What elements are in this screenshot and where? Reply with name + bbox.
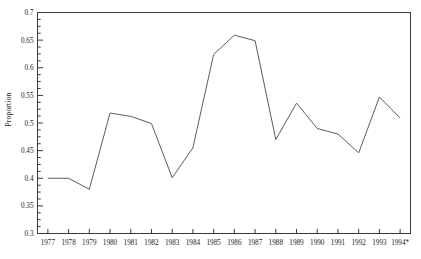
- svg-text:1978: 1978: [61, 239, 76, 247]
- svg-text:0.5: 0.5: [25, 120, 34, 128]
- svg-text:1990: 1990: [310, 239, 325, 247]
- svg-text:0.45: 0.45: [21, 147, 34, 155]
- svg-text:1979: 1979: [82, 239, 97, 247]
- svg-text:1980: 1980: [103, 239, 118, 247]
- svg-text:1994*: 1994*: [391, 239, 409, 247]
- svg-text:0.6: 0.6: [25, 64, 34, 72]
- svg-text:0.4: 0.4: [25, 175, 34, 183]
- svg-text:0.7: 0.7: [25, 9, 34, 17]
- svg-text:1992: 1992: [352, 239, 367, 247]
- svg-text:1985: 1985: [206, 239, 221, 247]
- svg-text:0.3: 0.3: [25, 230, 34, 238]
- x-axis-ticks: [48, 229, 400, 234]
- svg-text:0.55: 0.55: [21, 92, 34, 100]
- y-axis-ticks: [38, 13, 44, 234]
- x-axis-tick-labels: 1977197819791980198119821983198419851986…: [41, 239, 410, 247]
- svg-text:1977: 1977: [41, 239, 56, 247]
- svg-text:1981: 1981: [124, 239, 139, 247]
- svg-text:1987: 1987: [248, 239, 263, 247]
- svg-text:0.35: 0.35: [21, 202, 34, 210]
- svg-text:0.65: 0.65: [21, 37, 34, 45]
- svg-text:1982: 1982: [144, 239, 159, 247]
- svg-text:1989: 1989: [289, 239, 304, 247]
- svg-text:1991: 1991: [331, 239, 346, 247]
- svg-text:1986: 1986: [227, 239, 242, 247]
- plot-frame: [38, 13, 411, 234]
- svg-text:1993: 1993: [372, 239, 387, 247]
- line-chart: Proportion 0.30.350.40.450.50.550.60.650…: [0, 0, 421, 259]
- svg-text:1988: 1988: [269, 239, 284, 247]
- y-axis-tick-labels: 0.30.350.40.450.50.550.60.650.7: [21, 9, 34, 238]
- svg-text:1983: 1983: [165, 239, 180, 247]
- plot-area: 0.30.350.40.450.50.550.60.650.7 19771978…: [0, 0, 421, 259]
- svg-text:1984: 1984: [186, 239, 201, 247]
- data-series: [48, 35, 400, 189]
